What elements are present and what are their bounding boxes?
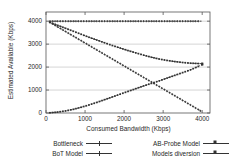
legend-item-bottleneck: Bottleneck xyxy=(20,138,112,148)
chart-legend: Bottleneck BoT Model AB-Probe Model xyxy=(0,137,235,163)
svg-text:2000: 2000 xyxy=(28,63,43,70)
legend-item-bot-model: BoT Model xyxy=(20,148,112,158)
svg-text:3000: 3000 xyxy=(28,40,43,47)
svg-text:1000: 1000 xyxy=(78,115,93,122)
legend-item-ab-probe-model: AB-Probe Model xyxy=(124,138,229,148)
legend-key-ab-probe-model xyxy=(203,139,229,147)
legend-key-models-diversion xyxy=(203,149,229,157)
svg-text:2000: 2000 xyxy=(117,115,132,122)
svg-text:3000: 3000 xyxy=(156,115,171,122)
svg-text:1000: 1000 xyxy=(28,86,43,93)
chart-figure: 01000200030004000 01000200030004000 Esti… xyxy=(0,0,235,165)
legend-key-bot-model xyxy=(86,149,112,157)
x-axis-label: Consumed Bandwidth (Kbps) xyxy=(46,125,211,132)
legend-item-models-diversion: Models diversion xyxy=(124,148,229,158)
svg-text:0: 0 xyxy=(44,115,48,122)
legend-label-bottleneck: Bottleneck xyxy=(53,140,83,147)
legend-key-bottleneck xyxy=(86,139,112,147)
legend-label-ab-probe-model: AB-Probe Model xyxy=(153,140,200,147)
svg-text:0: 0 xyxy=(38,109,42,116)
svg-text:4000: 4000 xyxy=(28,17,43,24)
legend-label-models-diversion: Models diversion xyxy=(152,150,200,157)
legend-label-bot-model: BoT Model xyxy=(52,150,83,157)
grid-lines xyxy=(46,21,210,90)
y-axis-label: Estimated Available (Kbps) xyxy=(7,13,14,109)
svg-text:4000: 4000 xyxy=(195,115,210,122)
